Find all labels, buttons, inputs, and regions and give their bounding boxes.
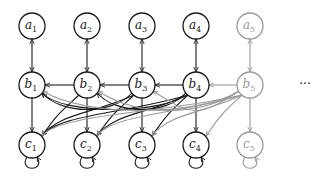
node-a2: a2 [74,13,100,39]
node-c4: c4 [183,132,209,158]
node-a5: a5 [237,13,263,39]
node-b5: b5 [237,72,263,98]
node-b4: b4 [183,72,209,98]
node-b3: b3 [129,72,155,98]
selfloop-c5 [243,157,257,168]
node-b1: b1 [19,72,45,98]
node-c3: c3 [129,132,155,158]
selfloop-c4 [189,157,203,168]
node-b2: b2 [74,72,100,98]
node-c1: c1 [19,132,45,158]
selfloop-c1 [25,157,39,168]
continuation-ellipsis: ··· [299,77,310,91]
node-a1: a1 [19,13,45,39]
selfloop-c2 [80,157,94,168]
selfloop-c3 [135,157,149,168]
node-a3: a3 [129,13,155,39]
node-a4: a4 [183,13,209,39]
node-c5: c5 [237,132,263,158]
edge-b4-c1 [42,95,188,136]
graphical-model-diagram: a1a2a3a4a5b1b2b3b4b5c1c2c3c4c5 ··· [0,0,316,183]
node-c2: c2 [74,132,100,158]
